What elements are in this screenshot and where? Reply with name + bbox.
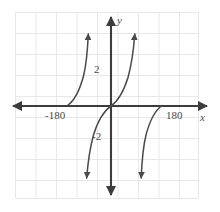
y-axis-label: y bbox=[117, 15, 122, 26]
tan-branch-left bbox=[68, 34, 89, 106]
x-tick-label-neg-180: -180 bbox=[45, 110, 65, 121]
y-tick-label-neg-2: -2 bbox=[92, 131, 101, 142]
x-tick-label-180: 180 bbox=[166, 110, 183, 121]
x-axis-label: x bbox=[200, 112, 205, 123]
tan-branch-center-lower bbox=[87, 106, 111, 178]
plot-canvas bbox=[0, 0, 220, 212]
tan-branch-center-upper bbox=[111, 34, 135, 106]
y-tick-label-2: 2 bbox=[94, 64, 100, 75]
tangent-function-graph: -180 180 2 -2 x y bbox=[0, 0, 220, 212]
